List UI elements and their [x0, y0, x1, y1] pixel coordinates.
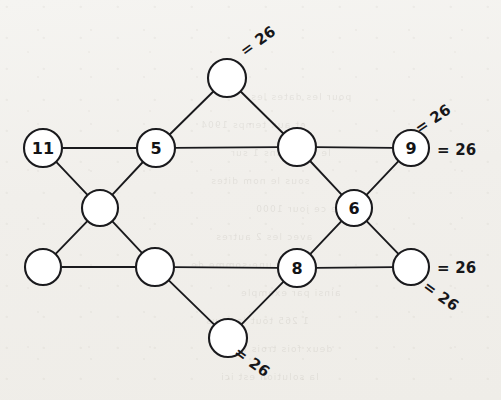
- node-circle: [25, 249, 61, 285]
- graph-edge: [241, 281, 284, 325]
- graph-edge: [316, 147, 394, 148]
- graph-edge: [112, 221, 142, 254]
- node-circle: [82, 190, 118, 226]
- node-circle: [393, 249, 429, 285]
- graph-node-mid-left[interactable]: [82, 190, 118, 226]
- graph-node-lower-left[interactable]: [136, 248, 174, 286]
- graph-node-right-lower[interactable]: [393, 249, 429, 285]
- graph-edge: [112, 162, 143, 196]
- graph-node-left-lower[interactable]: [25, 249, 61, 285]
- graph-edge: [174, 267, 279, 268]
- graph-edge: [366, 161, 399, 196]
- figure-canvas: pour les dates leset aux temps 1904le to…: [0, 0, 501, 400]
- node-layer: 115968: [24, 59, 429, 357]
- graph-node-lower-right[interactable]: 8: [278, 249, 316, 287]
- node-value: 5: [150, 139, 161, 158]
- sum-right-upper: = 26: [437, 141, 476, 159]
- node-value: 9: [405, 139, 416, 158]
- graph-edge: [240, 91, 284, 134]
- graph-edge: [316, 267, 394, 268]
- sum-right-lower: = 26: [437, 259, 476, 277]
- graph-edge: [310, 221, 342, 255]
- node-value: 6: [348, 199, 359, 218]
- graph-node-upper-right[interactable]: [278, 128, 316, 166]
- node-circle: [136, 248, 174, 286]
- node-value: 8: [291, 259, 302, 278]
- graph-node-top[interactable]: [208, 59, 246, 97]
- graph-edge: [310, 161, 342, 196]
- graph-edge: [169, 91, 214, 135]
- graph-edge: [366, 221, 399, 255]
- graph-edge: [168, 280, 214, 325]
- graph-node-upper-left[interactable]: 5: [137, 129, 175, 167]
- graph-edge: [56, 161, 88, 195]
- graph-node-left-outer[interactable]: 11: [24, 129, 62, 167]
- node-value: 11: [32, 139, 54, 158]
- graph-edge: [175, 147, 279, 148]
- node-circle: [278, 128, 316, 166]
- graph-node-mid-right[interactable]: 6: [336, 190, 372, 226]
- graph-edge: [55, 221, 88, 255]
- magic-star-diagram: 115968: [0, 0, 501, 400]
- node-circle: [208, 59, 246, 97]
